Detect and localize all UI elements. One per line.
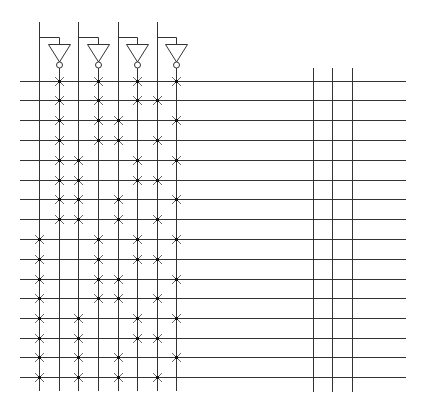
- inverter-icon: [40, 38, 71, 69]
- inverter-icon: [119, 38, 149, 69]
- inverter-icon: [158, 38, 188, 69]
- output-column-lines: [314, 68, 353, 392]
- crosspoint-connections: [35, 77, 181, 382]
- inverter-icon: [79, 38, 110, 69]
- inversion-bubble-icon: [57, 62, 63, 68]
- inversion-bubble-icon: [174, 62, 180, 68]
- pla-and-plane-canvas: [0, 0, 427, 410]
- input-column-lines: [40, 22, 177, 391]
- inversion-bubble-icon: [135, 62, 141, 68]
- inversion-bubble-icon: [96, 62, 102, 68]
- pla-diagram: [0, 0, 427, 410]
- product-term-lines: [20, 82, 406, 378]
- input-inverters: [40, 38, 188, 69]
